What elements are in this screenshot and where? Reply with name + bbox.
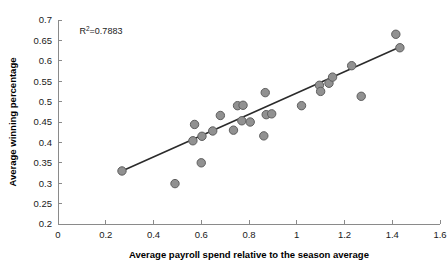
r-squared-annotation: R2=0.7883: [79, 25, 122, 36]
x-axis-tick-labels: 00.20.40.60.811.21.41.6: [55, 229, 446, 240]
x-tick-label: 1: [294, 229, 299, 240]
x-tick-label: 0.4: [147, 229, 160, 240]
x-tick-label: 0.8: [242, 229, 255, 240]
data-point: [260, 132, 268, 140]
y-tick-label: 0.3: [39, 178, 52, 189]
data-point: [261, 88, 269, 96]
trendline: [122, 47, 400, 171]
data-point: [239, 101, 247, 109]
x-tick-label: 1.2: [338, 229, 351, 240]
y-tick-label: 0.4: [39, 137, 52, 148]
chart-canvas: 0.20.250.30.350.40.450.50.550.60.650.7 0…: [0, 0, 448, 270]
y-axis-ticks: [58, 20, 62, 224]
x-axis-ticks: [58, 220, 440, 224]
data-point: [229, 126, 237, 134]
y-tick-label: 0.6: [39, 55, 52, 66]
data-point: [328, 73, 336, 81]
data-point: [396, 44, 404, 52]
data-point: [392, 30, 400, 38]
data-point: [197, 159, 205, 167]
x-axis-title: Average payroll spend relative to the se…: [129, 249, 369, 260]
y-tick-label: 0.2: [39, 218, 52, 229]
data-point: [347, 61, 355, 69]
x-tick-label: 1.6: [433, 229, 446, 240]
data-point: [209, 127, 217, 135]
y-tick-label: 0.35: [34, 157, 53, 168]
data-point: [316, 87, 324, 95]
y-axis-title: Average winning percentage: [7, 58, 18, 187]
data-point: [267, 110, 275, 118]
y-tick-label: 0.45: [34, 116, 53, 127]
data-point: [189, 137, 197, 145]
data-point: [171, 179, 179, 187]
scatter-plot-figure: 0.20.250.30.350.40.450.50.550.60.650.7 0…: [0, 0, 448, 270]
data-point: [198, 132, 206, 140]
data-point: [118, 167, 126, 175]
data-point: [246, 118, 254, 126]
data-point: [190, 120, 198, 128]
x-tick-label: 0.6: [195, 229, 208, 240]
data-point: [357, 92, 365, 100]
x-tick-label: 0: [55, 229, 60, 240]
y-tick-label: 0.55: [34, 76, 53, 87]
x-tick-label: 0.2: [99, 229, 112, 240]
data-point: [238, 117, 246, 125]
data-point: [216, 111, 224, 119]
x-tick-label: 1.4: [386, 229, 399, 240]
data-point: [297, 101, 305, 109]
y-axis-tick-labels: 0.20.250.30.350.40.450.50.550.60.650.7: [34, 14, 53, 229]
y-tick-label: 0.5: [39, 96, 52, 107]
y-tick-label: 0.65: [34, 35, 53, 46]
y-tick-label: 0.25: [34, 198, 53, 209]
y-tick-label: 0.7: [39, 14, 52, 25]
